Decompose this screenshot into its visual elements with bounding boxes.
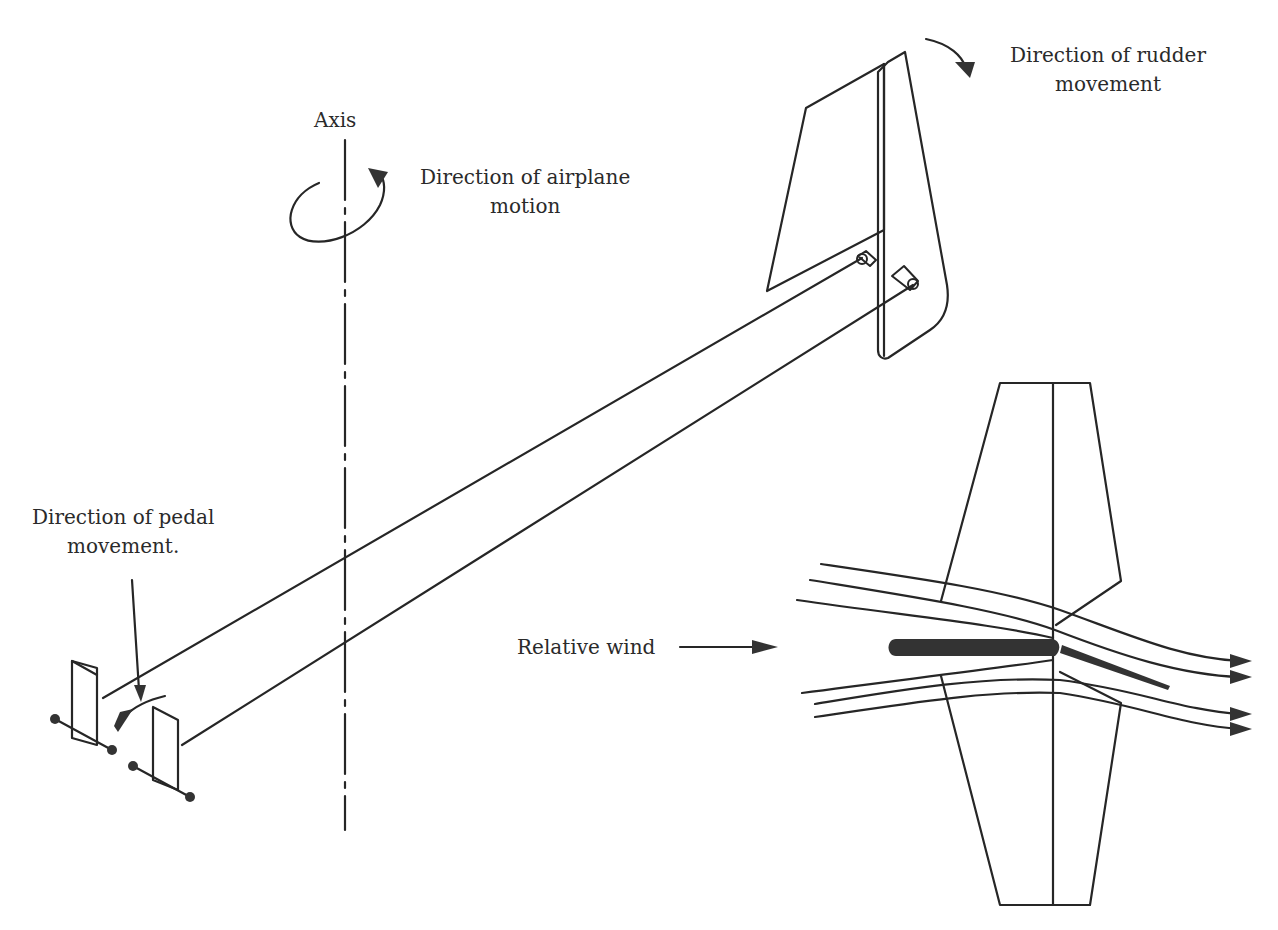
rotation-arrow-icon — [290, 168, 388, 242]
pedal-movement-label: Direction of pedal movement. — [32, 503, 214, 561]
relative-wind-arrow-icon — [680, 640, 778, 654]
airplane-motion-label: Direction of airplane motion — [420, 163, 630, 221]
relative-wind-label: Relative wind — [517, 633, 655, 662]
rudder-diagram — [0, 0, 1278, 930]
vertical-fin — [767, 52, 948, 359]
rudder-pedal-right — [128, 707, 195, 802]
airplane-motion-line1: Direction of airplane — [420, 163, 630, 192]
rudder-movement-line1: Direction of rudder — [1010, 41, 1206, 70]
rudder-movement-line2: movement — [1010, 70, 1206, 99]
relative-wind-text: Relative wind — [517, 635, 655, 659]
rudder-pedal-left — [50, 661, 117, 755]
pedal-movement-line2: movement. — [32, 532, 214, 561]
rudder-movement-label: Direction of rudder movement — [1010, 41, 1206, 99]
axis-label-text: Axis — [314, 108, 356, 132]
pedal-movement-line1: Direction of pedal — [32, 503, 214, 532]
rudder-movement-arrow-icon — [926, 39, 975, 78]
airplane-motion-line2: motion — [420, 192, 630, 221]
axis-label: Axis — [314, 106, 356, 135]
control-cables — [103, 258, 913, 745]
